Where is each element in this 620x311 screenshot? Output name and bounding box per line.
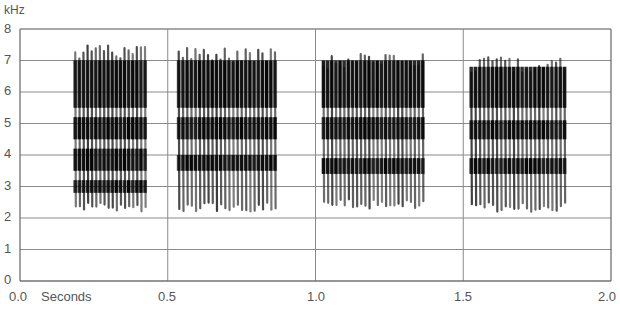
syllable-3 [321, 54, 424, 208]
syllable-4 [469, 57, 567, 211]
syllable-1 [73, 46, 147, 212]
spectrogram-plot [0, 0, 620, 311]
